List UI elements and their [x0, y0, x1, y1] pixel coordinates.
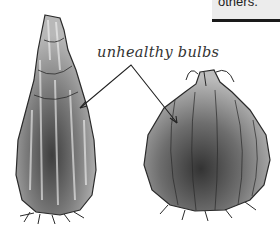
- round-bulb-icon: [144, 70, 270, 221]
- bulbs-illustration: [0, 0, 280, 239]
- illustration-label: unhealthy bulbs: [97, 44, 219, 60]
- elongated-bulb-icon: [16, 15, 96, 224]
